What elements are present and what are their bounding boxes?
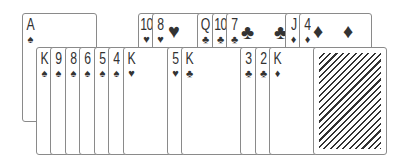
spade-icon: ♠ [85,68,91,79]
card-rank: K [274,50,281,67]
card-index: Q ♣ [200,16,211,45]
spade-icon: ♠ [42,68,48,79]
spade-icon: ♠ [114,68,120,79]
club-icon: ♣ [186,68,193,79]
card-rank: 4 [304,16,310,33]
card-index: 3 ♣ [243,50,254,79]
card-index: 7 ♣ [229,16,240,45]
club-icon: ♣ [217,34,224,45]
card-index: A ♠ [25,16,36,45]
card-rank: K [186,50,193,67]
card-index: 6 ♠ [82,50,93,79]
card-back-pattern [319,53,381,149]
card-rank: 9 [55,50,61,67]
club-pip-icon: ♣ [241,22,254,42]
spade-icon: ♠ [56,68,62,79]
card-rank: 3 [245,50,251,67]
card-index: K ♠ [39,50,50,79]
card-rank: A [27,16,34,33]
card-rank: 10 [140,16,152,33]
spade-icon: ♠ [71,68,77,79]
heart-icon: ♥ [128,68,135,79]
card-index: 5 ♥ [170,50,181,79]
card-rank: 4 [113,50,119,67]
card-index: 2 ♣ [258,50,269,79]
card-index: J ♦ [288,16,299,45]
card-rank: 10 [214,16,226,33]
card-rank: 2 [260,50,266,67]
card-rank: 8 [157,16,163,33]
club-icon: ♣ [245,68,252,79]
club-icon: ♣ [231,34,238,45]
card-index: K ♦ [272,50,283,79]
diamond-icon: ♦ [305,34,311,45]
card-index: 10 ♣ [215,16,226,45]
diamond-icon: ♦ [275,68,281,79]
card-rank: 8 [70,50,76,67]
club-icon: ♣ [260,68,267,79]
card-index: K ♥ [126,50,137,79]
card-rank: K [41,50,48,67]
card-face-down[interactable] [313,47,387,155]
diamond-pip-icon: ♦ [313,21,323,41]
card-rank: 7 [231,16,237,33]
card-index: 4 ♦ [302,16,313,45]
card-index: K ♣ [184,50,195,79]
card-index: 5 ♠ [97,50,108,79]
heart-pip-icon: ♥ [168,21,180,41]
card-index: 10 ♥ [141,16,152,45]
card-rank: K [128,50,135,67]
spade-icon: ♠ [28,34,34,45]
spade-icon: ♠ [100,68,106,79]
heart-icon: ♥ [172,68,179,79]
diamond-pip-icon: ♦ [343,21,353,41]
card-rank: 6 [84,50,90,67]
diamond-icon: ♦ [291,34,297,45]
card-rank: Q [201,16,210,33]
heart-icon: ♥ [143,34,150,45]
card-index: 9 ♠ [53,50,64,79]
card-index: 8 ♠ [68,50,79,79]
heart-icon: ♥ [157,34,164,45]
card-rank: J [291,16,296,33]
card-rank: 5 [99,50,105,67]
card-index: 4 ♠ [111,50,122,79]
card-index: 8 ♥ [155,16,166,45]
card-rank: 5 [172,50,178,67]
club-icon: ♣ [202,34,209,45]
